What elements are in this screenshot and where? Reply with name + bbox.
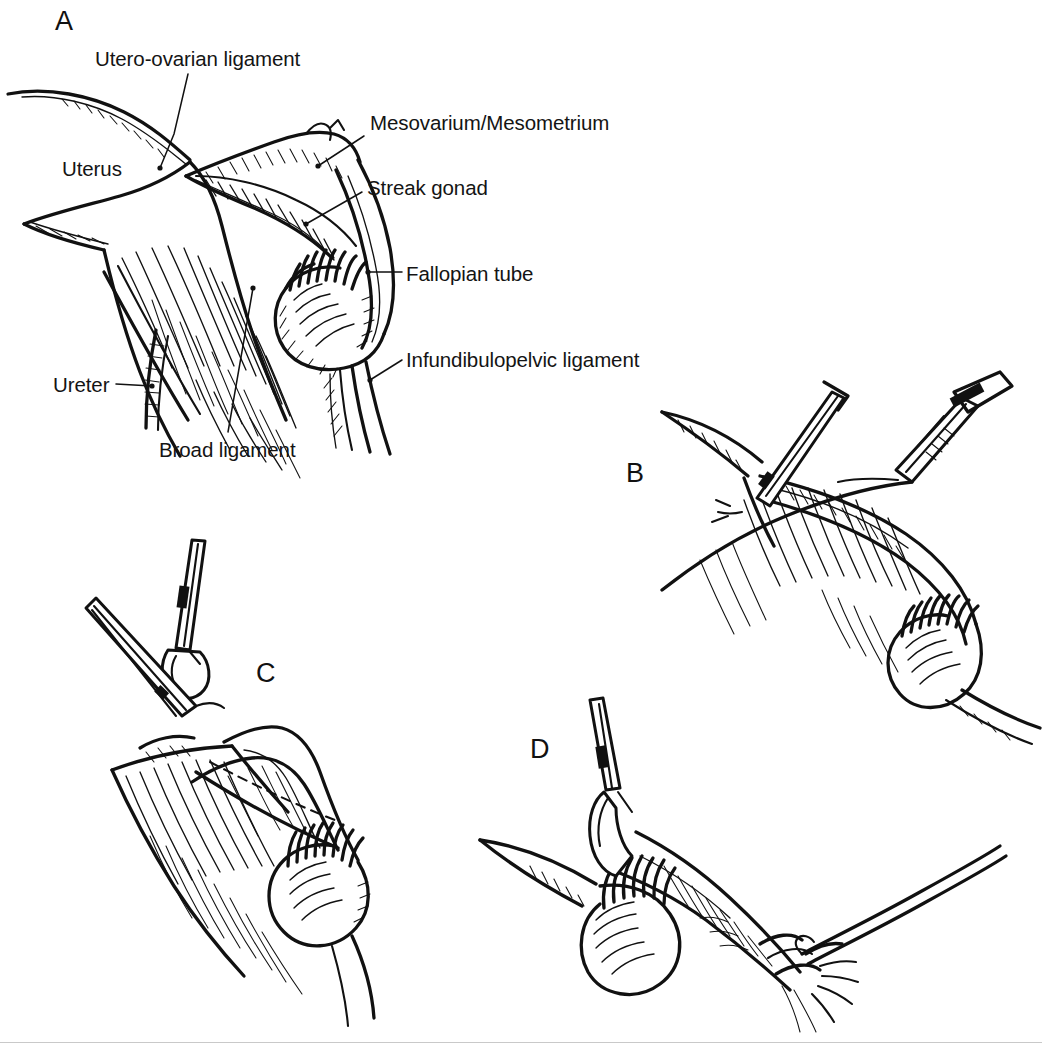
panel-letter-a: A: [55, 8, 73, 35]
panel-a-artwork: [8, 74, 402, 478]
annotation-uterus: Uterus: [62, 158, 122, 180]
annotation-infundibulopelvic-ligament: Infundibulopelvic ligament: [406, 349, 639, 371]
annotation-utero-ovarian-ligament: Utero-ovarian ligament: [95, 48, 300, 70]
panel-letter-d: D: [530, 736, 550, 763]
panel-letter-c: C: [256, 660, 276, 687]
surgical-clamp-c1: [162, 540, 209, 699]
annotation-broad-ligament: Broad ligament: [159, 439, 296, 461]
panel-letter-b: B: [626, 460, 644, 487]
figure-container: .s {fill:none;stroke:#111;stroke-width:2…: [0, 0, 1042, 1043]
leader-lines-panel-a: [116, 74, 402, 432]
annotation-ureter: Ureter: [53, 374, 109, 396]
surgical-clamp-b2: [838, 372, 1012, 482]
panel-c-artwork: [86, 540, 374, 1026]
tie-instrument-d: [796, 846, 1006, 964]
panel-b-artwork: [662, 372, 1040, 744]
annotation-fallopian-tube: Fallopian tube: [406, 263, 533, 285]
illustration-artwork: .s {fill:none;stroke:#111;stroke-width:2…: [0, 0, 1042, 1043]
surgical-clamp-d1: [590, 698, 632, 876]
annotation-streak-gonad: Streak gonad: [367, 177, 488, 199]
panel-d-artwork: [480, 698, 1006, 1032]
annotation-mesovarium-mesometrium: Mesovarium/Mesometrium: [370, 112, 609, 134]
